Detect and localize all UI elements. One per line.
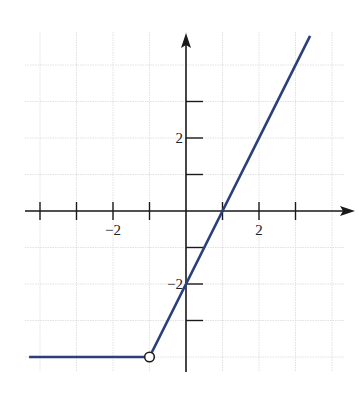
x-tick-label: 2 (255, 222, 263, 238)
function-graph: −222−2 (0, 0, 359, 394)
y-tick-label: −2 (167, 276, 183, 292)
open-circle-marker (145, 352, 155, 362)
series-line (150, 36, 311, 357)
x-tick-label: −2 (105, 222, 121, 238)
graph-series (29, 36, 310, 357)
grid-lines (25, 32, 345, 372)
y-tick-label: 2 (176, 130, 184, 146)
annotations (145, 352, 155, 362)
